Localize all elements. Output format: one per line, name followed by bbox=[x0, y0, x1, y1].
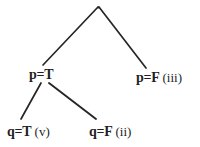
node-q-false-assignment: q=F bbox=[89, 124, 112, 139]
node-p-false: p=F (iii) bbox=[136, 71, 182, 85]
root-node-apex bbox=[97, 6, 99, 8]
truth-tree-diagram: p=T p=F (iii) q=T (v) q=F (ii) bbox=[0, 0, 200, 147]
node-q-true: q=T (v) bbox=[7, 125, 50, 139]
edge-root-to-p-true bbox=[43, 7, 98, 65]
node-q-false: q=F (ii) bbox=[89, 125, 131, 139]
edge-p-true-to-q-true bbox=[21, 83, 41, 119]
node-q-true-assignment: q=T bbox=[7, 124, 31, 139]
edge-p-true-to-q-false bbox=[49, 83, 96, 119]
node-q-true-tag: (v) bbox=[35, 124, 50, 139]
node-p-false-tag: (iii) bbox=[163, 70, 183, 85]
node-p-true: p=T bbox=[29, 68, 54, 82]
node-p-false-assignment: p=F bbox=[136, 70, 159, 85]
node-q-false-tag: (ii) bbox=[116, 124, 132, 139]
node-p-true-assignment: p=T bbox=[29, 67, 54, 82]
edge-root-to-p-false bbox=[99, 7, 146, 68]
